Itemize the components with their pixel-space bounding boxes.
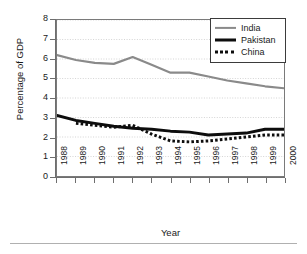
x-tick-label: 1990 [98,146,107,186]
figure-container: Percentage of GDP 012345678 198819891990… [0,0,307,254]
x-tick-mark [132,178,133,183]
legend-entry-india: India [215,22,281,34]
y-axis-tick-group: 012345678 [0,0,48,254]
x-tick-mark [190,178,191,183]
y-tick-label: 0 [6,172,48,181]
x-tick-label: 1988 [60,146,69,186]
x-tick-label: 1993 [155,146,164,186]
x-tick-label: 2000 [289,146,298,186]
india-line-swatch [215,23,236,33]
y-tick-label: 8 [6,14,48,23]
x-tick-label: 1989 [79,146,88,186]
x-axis-title: Year [56,228,285,238]
china-dotted-swatch [215,47,236,57]
legend-label-china: China [241,47,265,57]
x-tick-mark [151,178,152,183]
footer-rule [10,243,297,244]
legend-entry-pakistan: Pakistan [215,34,281,46]
y-tick-label: 4 [6,93,48,102]
x-tick-label: 1996 [212,146,221,186]
x-tick-mark [209,178,210,183]
x-tick-label: 1998 [250,146,259,186]
x-tick-mark [171,178,172,183]
x-tick-label: 1997 [231,146,240,186]
legend-label-pakistan: Pakistan [241,35,276,45]
y-tick-label: 6 [6,54,48,63]
x-tick-label: 1992 [136,146,145,186]
x-tick-label: 1995 [193,146,202,186]
x-tick-mark [285,178,286,183]
y-tick-label: 5 [6,73,48,82]
y-tick-label: 7 [6,34,48,43]
pakistan-line-swatch [215,35,236,45]
x-tick-mark [228,178,229,183]
x-tick-mark [247,178,248,183]
y-tick-label: 2 [6,133,48,142]
x-tick-label: 1991 [117,146,126,186]
x-tick-mark [113,178,114,183]
chart-legend: India Pakistan China [210,18,286,63]
x-tick-mark [94,178,95,183]
x-tick-mark [266,178,267,183]
x-tick-label: 1994 [174,146,183,186]
y-tick-label: 3 [6,113,48,122]
x-tick-label: 1999 [269,146,278,186]
legend-label-india: India [241,23,261,33]
legend-entry-china: China [215,46,281,58]
x-tick-mark [75,178,76,183]
x-tick-mark [56,178,57,183]
y-tick-label: 1 [6,152,48,161]
